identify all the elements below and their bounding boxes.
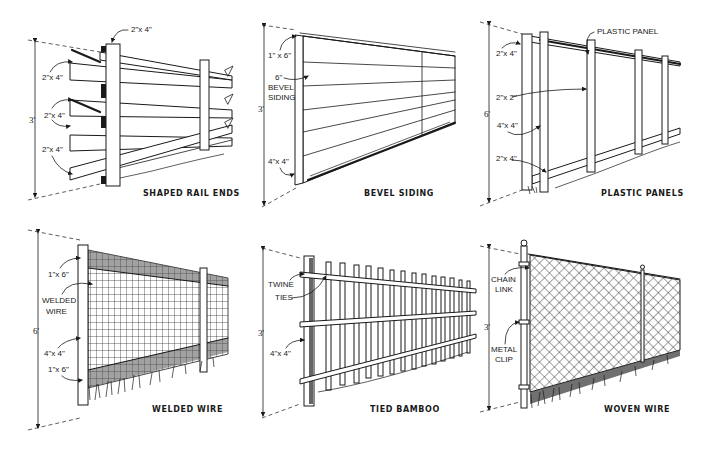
label-chain: CHAIN: [491, 275, 516, 284]
label-2x4-3: 2"x 4": [42, 145, 63, 154]
label-wire: WIRE: [46, 307, 67, 316]
label-link: LINK: [495, 285, 513, 294]
fence-types-diagram: 3' 2"x 4" 2"x 4" 2"x 4" 2"x 4" SHAPED RA…: [0, 0, 706, 453]
height-label: 6': [484, 109, 491, 119]
label-1x6-bottom: 1"x 6": [48, 365, 69, 374]
label-2x2: 2"x 2": [496, 93, 517, 102]
label-clip: CLIP: [495, 355, 513, 364]
label-4x4: 4"x 4": [270, 349, 291, 358]
label-metal: METAL: [491, 345, 518, 354]
label-2x4-top: 2"x 4": [496, 49, 517, 58]
label-2x4-top: 2"x 4": [131, 25, 152, 34]
caption-bevel-siding: BEVEL SIDING: [364, 189, 434, 198]
height-label: 3': [484, 322, 491, 332]
label-4x4: 4"x 4": [44, 349, 65, 358]
label-ties: TIES: [275, 293, 293, 302]
label-4x4: 4"x 4": [497, 121, 518, 130]
panel-welded-wire: 6' 1"x 6" WELDED WIRE 4"x 4" 1"x 6" WELD…: [28, 230, 228, 430]
panel-woven-wire: 3' CHAIN LINK METAL CLIP WOVEN WIRE: [480, 240, 680, 414]
label-twine: TWINE: [268, 280, 294, 289]
label-6in: 6": [275, 73, 282, 82]
caption-welded-wire: WELDED WIRE: [152, 405, 223, 414]
height-label: 3': [29, 115, 36, 125]
caption-shaped-rail-ends: SHAPED RAIL ENDS: [143, 189, 240, 198]
label-1x6: 1" x 6": [268, 51, 291, 60]
label-2x4-1: 2"x 4": [42, 73, 63, 82]
panel-plastic-panels: 6' PLASTIC PANEL 2"x 4" 2"x 2" 4"x 4" 2"…: [480, 22, 684, 206]
panel-bevel-siding: 3' 1" x 6" 6" BEVEL SIDING 4"x 4" BEVEL …: [258, 25, 455, 207]
caption-woven-wire: WOVEN WIRE: [604, 405, 670, 414]
height-label: 3': [258, 328, 265, 338]
label-1x6-top: 1"x 6": [48, 270, 69, 279]
panel-tied-bamboo: 3' TWINE TIES 4: [258, 248, 476, 418]
label-2x4-2: 2"x 4": [44, 111, 65, 120]
height-label: 3': [258, 104, 265, 114]
caption-plastic-panels: PLASTIC PANELS: [601, 189, 684, 198]
label-plastic-panel: PLASTIC PANEL: [597, 27, 659, 36]
label-siding: SIDING: [268, 93, 296, 102]
height-label: 6': [33, 326, 40, 336]
label-2x4-bottom: 2"x 4": [496, 154, 517, 163]
panel-shaped-rail-ends: 3' 2"x 4" 2"x 4" 2"x 4" 2"x 4" SHAPED RA…: [28, 25, 240, 200]
label-bevel: BEVEL: [268, 83, 294, 92]
label-welded: WELDED: [42, 296, 76, 305]
caption-tied-bamboo: TIED BAMBOO: [370, 405, 440, 414]
label-4x4: 4"x 4": [268, 157, 289, 166]
